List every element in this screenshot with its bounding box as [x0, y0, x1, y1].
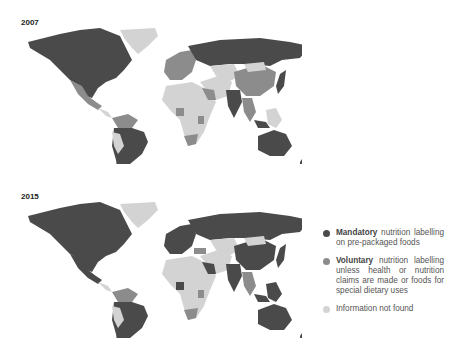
region-russia	[188, 38, 302, 66]
region-australia	[258, 130, 292, 156]
legend-label-bold: Mandatory	[336, 228, 377, 237]
legend-dot-voluntary-icon	[323, 258, 330, 265]
region-europe	[164, 224, 196, 254]
region-venezuela	[112, 288, 138, 302]
world-map-2015	[20, 198, 302, 338]
legend-label-bold: Voluntary	[336, 256, 373, 265]
region-nigeria	[176, 282, 184, 290]
legend-item-not-found: Information not found	[322, 304, 444, 314]
region-india	[226, 264, 242, 292]
legend-label-text: Information not found	[336, 304, 413, 313]
legend-item-voluntary: Voluntary nutrition labelling unless hea…	[322, 256, 444, 296]
legend-item-mandatory: Mandatory nutrition labelling on pre-pac…	[322, 228, 444, 248]
region-south-africa	[184, 308, 198, 320]
region-india	[226, 90, 242, 118]
region-russia	[188, 212, 302, 240]
region-kenya	[198, 290, 204, 298]
region-europe	[164, 50, 196, 80]
region-turkey	[194, 248, 206, 254]
legend-dot-mandatory-icon	[323, 230, 330, 237]
region-colombia-venezuela	[112, 114, 138, 128]
legend: Mandatory nutrition labelling on pre-pac…	[322, 228, 444, 322]
legend-dot-not-found-icon	[323, 306, 330, 313]
region-south-africa	[184, 134, 198, 146]
region-nigeria	[176, 108, 184, 116]
world-map-2007	[20, 24, 302, 164]
region-australia	[258, 304, 292, 330]
region-kenya	[198, 116, 204, 124]
